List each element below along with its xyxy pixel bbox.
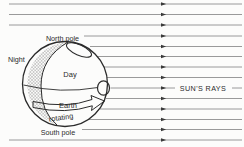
ray-arrowhead-icon xyxy=(161,128,166,132)
ray-arrowhead-icon xyxy=(161,76,166,80)
ray-arrowhead-icon xyxy=(161,65,166,69)
ray-arrowhead-icon xyxy=(161,138,166,142)
earth-day-night-diagram: North pole Night Day Earth rotating Sout… xyxy=(0,0,244,147)
ray-arrowhead-icon xyxy=(161,2,166,6)
night-label: Night xyxy=(8,55,25,64)
ray-arrowhead-icon xyxy=(161,34,166,38)
ray-arrowhead-icon xyxy=(161,55,166,59)
day-label: Day xyxy=(63,70,77,79)
ray-arrowhead-icon xyxy=(161,13,166,17)
ray-arrowhead-icon xyxy=(161,86,166,90)
south-pole-label: South pole xyxy=(41,128,75,137)
earth-label: Earth xyxy=(59,101,77,110)
ray-arrowhead-icon xyxy=(161,45,166,49)
ray-arrowhead-icon xyxy=(161,107,166,111)
north-pole-label: North pole xyxy=(46,34,79,43)
ray-arrowhead-icon xyxy=(161,118,166,122)
suns-rays-label: SUN'S RAYS xyxy=(180,84,226,93)
ray-arrowhead-icon xyxy=(161,23,166,27)
diagram-svg: North pole Night Day Earth rotating Sout… xyxy=(0,0,244,147)
rotating-label: rotating xyxy=(48,111,73,123)
ray-arrowhead-icon xyxy=(161,97,166,101)
